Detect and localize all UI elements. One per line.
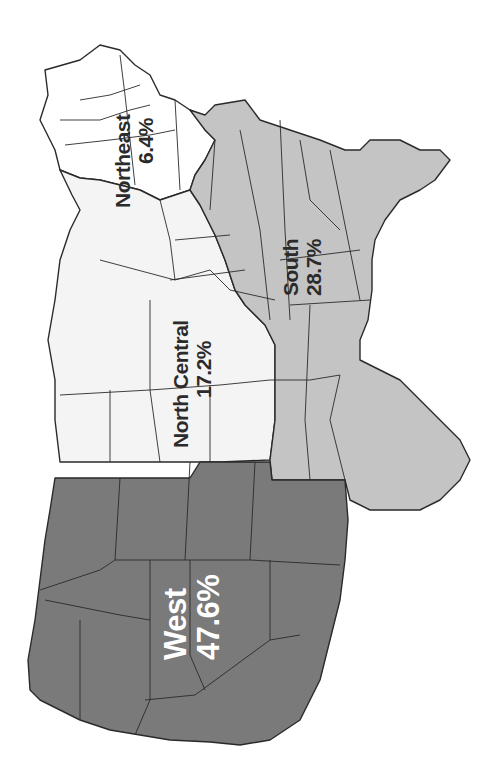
region-value: 17.2% — [193, 320, 214, 398]
region-value: 47.6% — [193, 575, 224, 660]
region-value: 28.7% — [303, 239, 324, 296]
region-name: North Central — [170, 320, 191, 448]
label-north-central: North Central 17.2% — [170, 320, 214, 448]
region-name: South — [280, 239, 301, 296]
label-south: South 28.7% — [280, 239, 324, 296]
us-region-map — [0, 0, 478, 780]
label-northeast: Northeast 6.4% — [112, 114, 156, 208]
region-name: Northeast — [112, 114, 133, 208]
region-value: 6.4% — [135, 114, 156, 164]
region-name: West — [160, 575, 191, 660]
label-west: West 47.6% — [160, 575, 224, 660]
